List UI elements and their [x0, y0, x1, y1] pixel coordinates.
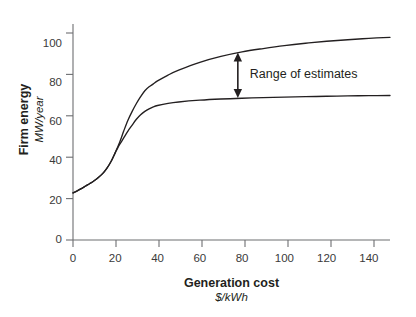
x-axis-title: Generation cost $/kWh	[73, 276, 390, 305]
x-tick-label: 40	[151, 253, 164, 265]
y-tick-label: 60	[34, 116, 62, 128]
curve-lower-estimate	[73, 95, 390, 192]
x-tick-label: 140	[359, 253, 378, 265]
x-axis-title-units: $/kWh	[73, 290, 390, 304]
y-tick-label: 0	[34, 234, 62, 246]
y-tick-label: 40	[34, 156, 62, 168]
plot-area	[0, 0, 416, 317]
y-tick-label: 80	[34, 77, 62, 89]
x-tick-marks	[73, 240, 374, 247]
x-tick-label: 120	[317, 253, 336, 265]
range-of-estimates-label: Range of estimates	[250, 68, 358, 81]
axes-group	[73, 24, 390, 240]
x-tick-label: 60	[193, 253, 206, 265]
x-tick-label: 20	[109, 253, 122, 265]
curve-upper-estimate	[73, 37, 390, 193]
x-axis-title-main: Generation cost	[73, 276, 390, 290]
x-tick-label: 100	[275, 253, 294, 265]
y-tick-label: 100	[34, 38, 62, 50]
x-tick-label: 0	[70, 253, 76, 265]
y-tick-marks	[66, 33, 73, 240]
range-of-estimates-arrow	[234, 52, 242, 98]
x-tick-label: 80	[236, 253, 249, 265]
y-axis-title-main: Firm energy	[17, 84, 31, 156]
chart-figure: Firm energy MW/year Generation cost $/kW…	[0, 0, 416, 317]
y-tick-label: 20	[34, 195, 62, 207]
